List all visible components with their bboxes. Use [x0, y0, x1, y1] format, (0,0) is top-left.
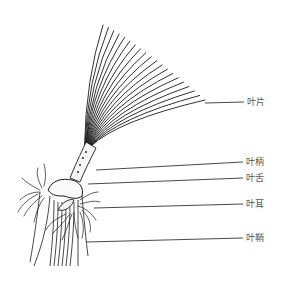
leaf-blade-veins: [85, 25, 206, 146]
ligule: [48, 179, 83, 198]
leaf-sheath: [30, 192, 88, 266]
label-leaf-blade: 叶片: [247, 97, 265, 107]
leader-line-blade: [205, 102, 244, 103]
petiole: [70, 142, 96, 182]
label-ligule: 叶舌: [246, 173, 264, 183]
leader-line-sheath: [86, 238, 243, 242]
vein-line: [89, 69, 168, 146]
leader-line-auricle: [94, 204, 243, 208]
label-leaf-sheath: 叶鞘: [246, 233, 264, 243]
label-auricle: 叶耳: [246, 199, 264, 209]
leaf-structure-diagram: 叶片 叶柄 叶舌 叶耳 叶鞘: [0, 0, 284, 284]
leader-line-petiole: [96, 162, 243, 170]
leader-line-ligule: [88, 178, 243, 184]
auricle: [58, 199, 74, 210]
auricle-bristles: [18, 164, 100, 240]
leaf-illustration: [0, 0, 284, 284]
label-petiole: 叶柄: [246, 157, 264, 167]
